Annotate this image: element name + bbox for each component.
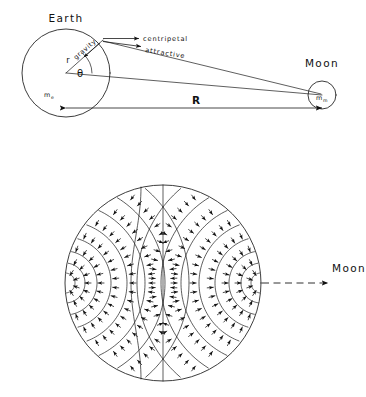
- moon-label-top: Moon: [305, 57, 339, 69]
- moon-label-bottom: Moon: [332, 262, 366, 274]
- top-panel-group: Earth Moon centripetal attractive r grav…: [22, 12, 339, 117]
- theta-arc: [84, 54, 92, 73]
- bottom-panel-group: Moon: [65, 185, 366, 381]
- moon-mass-label: m m: [316, 94, 328, 103]
- gravity-label: gravity: [72, 38, 98, 62]
- center-to-center-line: [66, 73, 322, 95]
- figure-canvas: Earth Moon centripetal attractive r grav…: [0, 0, 366, 397]
- attractive-label: attractive: [145, 46, 186, 60]
- earth-label: Earth: [48, 12, 83, 24]
- moon-mass-symbol: m: [316, 94, 322, 102]
- tidal-force-figure: Earth Moon centripetal attractive r grav…: [0, 0, 366, 397]
- theta-label: θ: [77, 68, 83, 79]
- moon-mass-subscript: m: [323, 98, 328, 103]
- surface-to-moon-line: [103, 41, 321, 94]
- distance-label: R: [192, 94, 200, 106]
- centripetal-label: centripetal: [143, 35, 188, 43]
- earth-mass-subscript: e: [51, 95, 54, 100]
- earth-mass-label: m e: [44, 91, 54, 100]
- radius-label: r: [66, 55, 70, 65]
- earth-mass-symbol: m: [44, 91, 50, 99]
